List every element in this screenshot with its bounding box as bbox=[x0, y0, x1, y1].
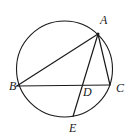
vertex-point-a bbox=[97, 33, 100, 36]
vertex-label-c: C bbox=[116, 82, 124, 94]
segment-ae bbox=[73, 34, 98, 117]
geometry-canvas bbox=[0, 0, 136, 140]
vertex-label-b: B bbox=[9, 80, 16, 92]
vertex-label-e: E bbox=[69, 122, 76, 134]
geometry-figure: A B C D E bbox=[0, 0, 136, 140]
vertex-label-a: A bbox=[100, 14, 107, 26]
vertex-label-d: D bbox=[83, 86, 92, 98]
segment-bc bbox=[17, 85, 110, 86]
segment-ab bbox=[17, 34, 98, 86]
